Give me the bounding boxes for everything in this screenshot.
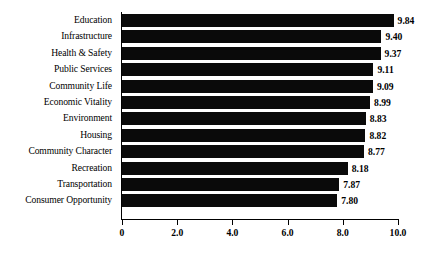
x-tick-mark — [343, 219, 344, 225]
category-label: Public Services — [0, 63, 112, 74]
bar — [122, 30, 381, 43]
category-label: Recreation — [0, 162, 112, 173]
x-tick-label: 4.0 — [226, 227, 238, 238]
bar — [122, 162, 348, 175]
category-label: Housing — [0, 129, 112, 140]
bar-value-label: 7.87 — [343, 178, 360, 191]
x-tick-mark — [177, 219, 178, 225]
category-label: Consumer Opportunity — [0, 194, 112, 205]
x-tick-mark — [122, 219, 123, 225]
bar-value-label: 8.83 — [370, 112, 387, 125]
x-tick-mark — [232, 219, 233, 225]
category-label: Environment — [0, 112, 112, 123]
bar — [122, 112, 366, 125]
category-label: Infrastructure — [0, 30, 112, 41]
x-tick-mark — [398, 219, 399, 225]
bar-value-label: 8.99 — [374, 96, 391, 109]
bar-value-label: 9.40 — [385, 30, 402, 43]
bar — [122, 14, 394, 27]
x-tick-label: 6.0 — [282, 227, 294, 238]
category-label: Community Life — [0, 80, 112, 91]
category-label: Transportation — [0, 178, 112, 189]
bar — [122, 145, 364, 158]
bar — [122, 80, 373, 93]
x-tick-label: 10.0 — [390, 227, 407, 238]
bar-value-label: 9.11 — [377, 63, 393, 76]
category-label: Community Character — [0, 145, 112, 156]
bar — [122, 96, 370, 109]
category-label: Economic Vitality — [0, 96, 112, 107]
category-label: Health & Safety — [0, 47, 112, 58]
bar — [122, 47, 381, 60]
bar — [122, 129, 365, 142]
bar-value-label: 9.09 — [377, 80, 394, 93]
category-axis-labels: EducationInfrastructureHealth & SafetyPu… — [0, 12, 116, 219]
bar-chart: EducationInfrastructureHealth & SafetyPu… — [0, 0, 435, 264]
x-tick-mark — [288, 219, 289, 225]
bar-value-label: 8.18 — [352, 162, 369, 175]
x-axis-line — [121, 219, 398, 220]
category-label: Education — [0, 14, 112, 25]
x-tick-label: 0 — [120, 227, 125, 238]
bar-value-label: 7.80 — [341, 194, 358, 207]
bar — [122, 63, 373, 76]
bar-value-label: 9.84 — [398, 14, 415, 27]
x-tick-label: 8.0 — [337, 227, 349, 238]
bar-value-label: 8.77 — [368, 145, 385, 158]
bar-value-label: 9.37 — [385, 47, 402, 60]
bar — [122, 194, 337, 207]
bar — [122, 178, 339, 191]
x-tick-label: 2.0 — [171, 227, 183, 238]
bar-value-label: 8.82 — [369, 129, 386, 142]
plot-area: 02.04.06.08.010.0 9.849.409.379.119.098.… — [122, 12, 398, 219]
